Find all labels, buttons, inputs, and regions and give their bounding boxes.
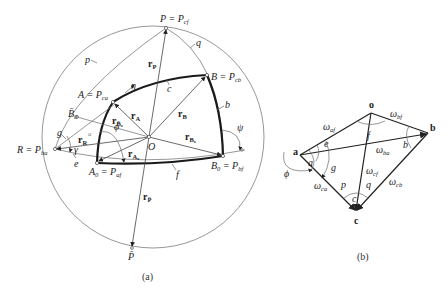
label-vector-rA: rA	[131, 110, 140, 122]
label-vector-rP: rP	[148, 58, 156, 70]
label-arc-e: e	[74, 158, 79, 169]
point-B	[205, 73, 208, 76]
label-B0: B0 = Pbf	[211, 160, 244, 172]
point-O	[147, 135, 150, 138]
label-angle-p-b: p	[340, 179, 346, 190]
label-arc-g: g	[57, 127, 62, 138]
point-P	[164, 26, 167, 29]
label-arc-b: b	[225, 99, 230, 110]
label-w-cf: ωcf	[366, 165, 379, 177]
label-angle-a-b: a	[308, 157, 313, 168]
point-psi-end	[241, 149, 243, 151]
label-angle-phi-b: ϕ	[284, 168, 289, 179]
point-B0	[221, 154, 224, 157]
figure-canvas: P = Pcf B = Pcb A = Pca R = Pba A0 = Paf…	[0, 0, 448, 296]
unit-sphere-outline	[42, 26, 264, 248]
label-angle-psi: ψ	[237, 122, 244, 133]
label-R: R = Pba	[16, 144, 47, 156]
label-angle-gamma: γ	[74, 144, 79, 155]
tick-p	[91, 60, 97, 63]
label-A0: A0 = Paf	[88, 166, 122, 178]
label-vector-rPbar: rP̄	[143, 191, 151, 203]
label-B: B = Pcb	[211, 71, 242, 83]
label-angle-b-b: b	[403, 139, 408, 150]
label-w-bf: ωbf	[390, 108, 403, 120]
label-vector-rR: rR	[78, 134, 87, 146]
vertex-b: b	[430, 122, 436, 133]
vertex-o: o	[369, 99, 374, 110]
label-angle-eta: η	[131, 80, 136, 91]
edge-w-cf	[356, 113, 371, 210]
label-P: P = Pcf	[159, 13, 190, 25]
caption-a: (a)	[142, 271, 153, 283]
label-arc-f: f	[176, 169, 180, 180]
label-arc-c: c	[167, 83, 172, 94]
label-angle-e-b: e	[324, 138, 329, 149]
label-vector-rB: rB	[178, 108, 187, 120]
label-w-af: ωaf	[323, 121, 336, 133]
label-angle-g-b: g	[331, 162, 336, 173]
label-w-cb: ωcb	[389, 176, 403, 188]
vertex-a: a	[293, 146, 298, 157]
caption-b: (b)	[357, 251, 369, 263]
point-R	[53, 147, 56, 150]
label-arc-p: p	[84, 54, 90, 65]
label-O: O	[148, 141, 155, 152]
arc-p-great-circle	[55, 28, 166, 149]
label-vector-rB0bar: rB̄₀	[112, 115, 123, 127]
tick-q	[190, 44, 195, 48]
figure-b-velocity-polygon: o a b c ωaf ωbf ωba ωcf ωca ωcb e f a g …	[284, 99, 436, 263]
label-w-ba: ωba	[376, 144, 390, 156]
label-vector-rB0: rB₀	[185, 131, 196, 143]
label-vector-rA0: rA₀	[128, 148, 139, 160]
label-Pbar: P̄	[127, 251, 134, 262]
point-A0	[95, 161, 98, 164]
label-arc-q: q	[196, 37, 201, 48]
angle-psi-arc	[222, 130, 240, 150]
label-angle-f-b: f	[367, 130, 371, 141]
point-Pbar	[131, 247, 134, 250]
label-w-ca: ωca	[314, 180, 327, 192]
figure-a-spherical: P = Pcf B = Pcb A = Pca R = Pba A0 = Paf…	[16, 13, 264, 283]
label-A: A = Pca	[77, 89, 108, 101]
label-B0bar: B̄0	[68, 108, 78, 120]
vertex-c: c	[354, 215, 359, 226]
label-angle-q-b: q	[366, 179, 371, 190]
link-c-arc	[113, 75, 207, 102]
point-A	[111, 100, 114, 103]
angle-f-arc	[356, 121, 385, 125]
label-angle-c-b: c	[352, 193, 357, 204]
link-b-arc	[207, 75, 223, 156]
label-arc-a: a	[88, 130, 92, 138]
angle-e-arc	[316, 145, 319, 161]
